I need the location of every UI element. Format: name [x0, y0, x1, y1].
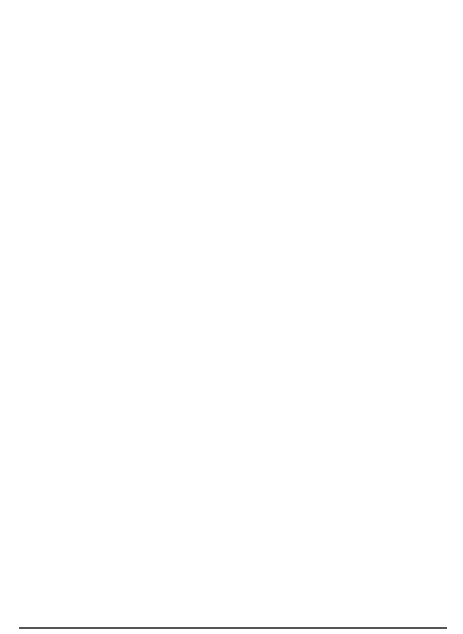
- caption-divider: [19, 627, 447, 629]
